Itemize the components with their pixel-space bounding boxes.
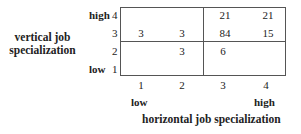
y-axis-high-label: high bbox=[89, 9, 110, 21]
x-tick-1: 1 bbox=[131, 79, 151, 91]
y-tick-3: 3 bbox=[112, 27, 118, 39]
x-tick-3: 3 bbox=[213, 79, 233, 91]
cell-r3-c4: 15 bbox=[258, 27, 278, 39]
y-axis-title-line1: vertical job bbox=[5, 31, 80, 44]
x-axis-low-label: low bbox=[131, 96, 148, 108]
cell-r2-c2: 3 bbox=[172, 45, 192, 57]
y-tick-2: 2 bbox=[112, 45, 118, 57]
y-tick-4: 4 bbox=[112, 9, 118, 21]
x-tick-2: 2 bbox=[172, 79, 192, 91]
x-axis-high-label: high bbox=[254, 96, 275, 108]
vertical-divider bbox=[203, 7, 204, 76]
x-axis-title: horizontal job specialization bbox=[142, 113, 281, 125]
cell-r3-c3: 84 bbox=[215, 27, 235, 39]
x-tick-4: 4 bbox=[256, 79, 276, 91]
cell-r3-c2: 3 bbox=[172, 27, 192, 39]
cell-r4-c3: 21 bbox=[215, 9, 235, 21]
y-axis-low-label: low bbox=[89, 63, 106, 75]
cell-r3-c1: 3 bbox=[131, 27, 151, 39]
cell-r4-c4: 21 bbox=[258, 9, 278, 21]
y-axis-title: vertical job specialization bbox=[5, 31, 80, 57]
cell-r2-c3: 6 bbox=[213, 45, 233, 57]
y-tick-1: 1 bbox=[112, 63, 118, 75]
y-axis-title-line2: specialization bbox=[5, 44, 80, 57]
